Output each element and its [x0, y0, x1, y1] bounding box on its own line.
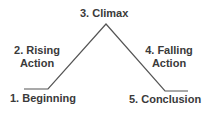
label-falling-line1: 4. Falling	[136, 44, 202, 57]
label-falling-action: 4. Falling Action	[136, 44, 202, 70]
label-beginning: 1. Beginning	[10, 92, 76, 105]
label-rising-action: 2. Rising Action	[8, 44, 66, 70]
label-climax: 3. Climax	[80, 7, 128, 20]
label-falling-line2: Action	[136, 57, 202, 70]
label-conclusion: 5. Conclusion	[129, 93, 201, 106]
label-rising-line2: Action	[8, 57, 66, 70]
label-rising-line1: 2. Rising	[8, 44, 66, 57]
